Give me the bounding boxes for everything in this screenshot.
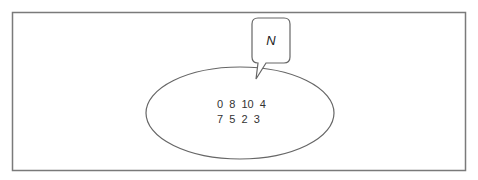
set-diagram: N 0 8 10 4 7 5 2 3 [0, 0, 478, 180]
set-label: N [266, 33, 276, 48]
set-elements-row-1: 0 8 10 4 [217, 98, 266, 110]
set-elements-row-2: 7 5 2 3 [217, 113, 260, 125]
